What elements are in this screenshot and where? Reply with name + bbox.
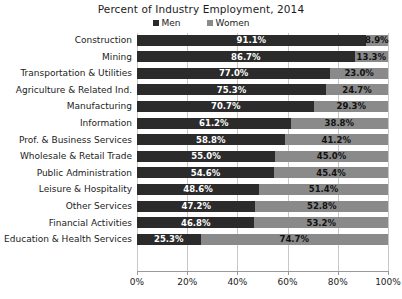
bar-segment-women: 13.3% xyxy=(355,51,388,62)
bar-row: Mining86.7%13.3% xyxy=(137,51,388,62)
bar-row: Manufacturing70.7%29.3% xyxy=(137,101,388,112)
bar-segment-men: 25.3% xyxy=(137,234,201,245)
bar-row: Prof. & Business Services58.8%41.2% xyxy=(137,134,388,145)
bar-row: Wholesale & Retail Trade55.0%45.0% xyxy=(137,151,388,162)
x-axis-tick xyxy=(338,271,339,275)
legend-swatch-women-icon xyxy=(207,20,213,26)
bar-segment-men: 91.1% xyxy=(137,35,366,46)
bar-segment-men: 58.8% xyxy=(137,134,285,145)
bar-row: Financial Activities46.8%53.2% xyxy=(137,217,388,228)
category-label: Other Services xyxy=(66,201,132,211)
bar-row: Construction91.1%8.9% xyxy=(137,35,388,46)
x-axis-tick-label: 20% xyxy=(177,277,197,287)
legend-label-men: Men xyxy=(162,18,181,28)
bar-row: Public Administration54.6%45.4% xyxy=(137,167,388,178)
legend-label-women: Women xyxy=(216,18,250,28)
bar-segment-men: 46.8% xyxy=(137,217,254,228)
category-label: Manufacturing xyxy=(67,101,132,111)
category-label: Transportation & Utilities xyxy=(20,68,132,78)
bar-segment-men: 61.2% xyxy=(137,118,291,129)
category-label: Education & Health Services xyxy=(4,234,132,244)
bar-segment-women: 29.3% xyxy=(314,101,388,112)
legend-item-men: Men xyxy=(153,18,181,28)
bar-rows: Construction91.1%8.9%Mining86.7%13.3%Tra… xyxy=(137,33,388,271)
bar-row: Leisure & Hospitality48.6%51.4% xyxy=(137,184,388,195)
bar-segment-women: 45.0% xyxy=(275,151,388,162)
category-label: Wholesale & Retail Trade xyxy=(20,151,132,161)
legend-item-women: Women xyxy=(207,18,250,28)
gridline xyxy=(388,33,389,271)
category-label: Public Administration xyxy=(37,168,132,178)
bar-segment-men: 54.6% xyxy=(137,167,274,178)
category-label: Leisure & Hospitality xyxy=(39,184,132,194)
bar-segment-men: 48.6% xyxy=(137,184,259,195)
bar-segment-women: 23.0% xyxy=(330,68,388,79)
x-axis-tick-label: 80% xyxy=(328,277,348,287)
bar-segment-women: 24.7% xyxy=(326,84,388,95)
bar-segment-women: 51.4% xyxy=(259,184,388,195)
bar-segment-men: 86.7% xyxy=(137,51,355,62)
bar-segment-women: 45.4% xyxy=(274,167,388,178)
bar-segment-women: 8.9% xyxy=(366,35,388,46)
bar-segment-men: 47.2% xyxy=(137,201,255,212)
legend-swatch-men-icon xyxy=(153,20,159,26)
category-label: Mining xyxy=(102,52,132,62)
bar-segment-women: 38.8% xyxy=(291,118,388,129)
x-axis-tick-label: 0% xyxy=(130,277,144,287)
category-label: Construction xyxy=(75,35,132,45)
x-axis-tick xyxy=(388,271,389,275)
plot-area: Construction91.1%8.9%Mining86.7%13.3%Tra… xyxy=(137,33,388,271)
bar-segment-men: 75.3% xyxy=(137,84,326,95)
x-axis-tick xyxy=(237,271,238,275)
bar-row: Education & Health Services25.3%74.7% xyxy=(137,234,388,245)
bar-segment-men: 70.7% xyxy=(137,101,314,112)
chart-legend: Men Women xyxy=(0,18,402,28)
bar-row: Transportation & Utilities77.0%23.0% xyxy=(137,68,388,79)
bar-segment-men: 55.0% xyxy=(137,151,275,162)
chart-title: Percent of Industry Employment, 2014 xyxy=(0,3,402,15)
bar-row: Agriculture & Related Ind.75.3%24.7% xyxy=(137,84,388,95)
category-label: Agriculture & Related Ind. xyxy=(16,85,132,95)
bar-segment-women: 74.7% xyxy=(201,234,388,245)
x-axis-tick xyxy=(288,271,289,275)
bar-row: Information61.2%38.8% xyxy=(137,118,388,129)
x-axis-tick xyxy=(137,271,138,275)
x-axis-tick-label: 60% xyxy=(278,277,298,287)
x-axis-tick-label: 100% xyxy=(375,277,401,287)
bar-segment-women: 53.2% xyxy=(254,217,388,228)
category-label: Information xyxy=(80,118,132,128)
bar-row: Other Services47.2%52.8% xyxy=(137,201,388,212)
x-axis-tick xyxy=(187,271,188,275)
chart-container: Percent of Industry Employment, 2014 Men… xyxy=(0,0,402,299)
bar-segment-men: 77.0% xyxy=(137,68,330,79)
category-label: Prof. & Business Services xyxy=(19,135,132,145)
x-axis-line xyxy=(137,271,389,272)
category-label: Financial Activities xyxy=(49,218,132,228)
bar-segment-women: 41.2% xyxy=(285,134,388,145)
x-axis-tick-label: 40% xyxy=(227,277,247,287)
bar-segment-women: 52.8% xyxy=(255,201,388,212)
